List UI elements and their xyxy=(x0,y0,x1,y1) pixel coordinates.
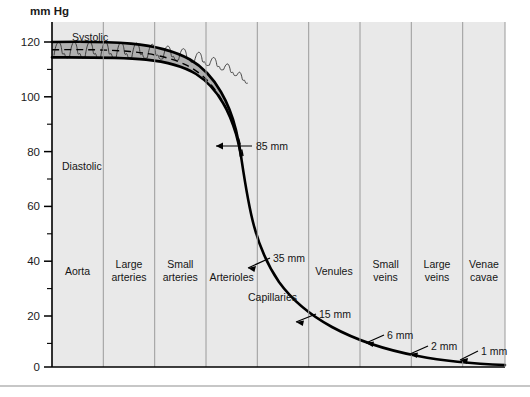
figure-root: 120 100 80 60 40 20 0 mm Hg Aorta Large … xyxy=(0,0,530,397)
segment-label-aorta: Aorta xyxy=(65,265,90,277)
annotation-15mm-label: 15 mm xyxy=(319,308,351,320)
segment-label-large-arteries-line2: arteries xyxy=(111,271,146,283)
annotation-1mm-label: 1 mm xyxy=(481,345,508,357)
segment-label-venae-cavae-line1: Venae xyxy=(469,258,499,270)
y-axis-ticks xyxy=(44,42,52,367)
y-tick-label-120: 120 xyxy=(21,36,40,48)
segment-label-venae-cavae-line2: cavae xyxy=(470,271,498,283)
segment-label-venules: Venules xyxy=(315,265,352,277)
annotation-85mm-label: 85 mm xyxy=(256,140,288,152)
y-tick-label-0: 0 xyxy=(34,361,40,373)
annotation-6mm-label: 6 mm xyxy=(387,329,414,341)
diastolic-label: Diastolic xyxy=(62,160,102,172)
y-tick-label-80: 80 xyxy=(27,146,40,158)
segment-label-small-veins-line2: veins xyxy=(373,271,398,283)
y-tick-label-40: 40 xyxy=(27,255,40,267)
y-tick-label-20: 20 xyxy=(27,310,40,322)
annotation-2mm-label: 2 mm xyxy=(431,340,458,352)
y-axis-unit-label: mm Hg xyxy=(30,5,69,17)
segment-label-large-veins-line2: veins xyxy=(425,271,450,283)
annotation-35mm-label: 35 mm xyxy=(273,252,305,264)
segment-label-small-arteries-line1: Small xyxy=(167,258,193,270)
systolic-label: Systolic xyxy=(72,31,108,43)
segment-label-large-arteries-line1: Large xyxy=(116,258,143,270)
segment-label-arterioles: Arterioles xyxy=(209,271,253,283)
segment-label-small-veins-line1: Small xyxy=(372,258,398,270)
segment-label-large-veins-line1: Large xyxy=(424,258,451,270)
y-tick-label-100: 100 xyxy=(21,91,40,103)
y-tick-label-60: 60 xyxy=(27,200,40,212)
capillaries-label: Capillaries xyxy=(248,291,297,303)
plot-background xyxy=(52,22,505,367)
segment-label-small-arteries-line2: arteries xyxy=(163,271,198,283)
blood-pressure-chart: 120 100 80 60 40 20 0 mm Hg Aorta Large … xyxy=(0,0,530,397)
